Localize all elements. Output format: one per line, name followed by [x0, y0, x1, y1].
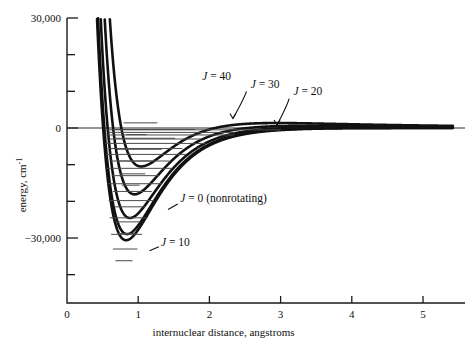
label-j20: J = 20 — [293, 85, 322, 97]
potential-curve-J20 — [101, 19, 453, 218]
y-axis-title: energy, cm-1 — [15, 158, 28, 213]
x-tick-label: 1 — [135, 308, 141, 320]
label-j30: J = 30 — [251, 78, 280, 90]
svg-text:energy, cm-1: energy, cm-1 — [15, 158, 28, 213]
label-j30-arrowhead — [230, 113, 236, 118]
y-tick-label: 0 — [56, 122, 62, 134]
x-tick-label: 0 — [64, 308, 70, 320]
y-tick-label: 30,000 — [31, 12, 62, 24]
y-tick-label: −30,000 — [25, 232, 62, 244]
x-axis-title: internuclear distance, angstroms — [153, 326, 295, 338]
label-j0-leader — [168, 204, 178, 210]
x-axis-ticks: 012345 — [64, 296, 426, 320]
x-tick-label: 5 — [420, 308, 426, 320]
x-tick-label: 4 — [349, 308, 355, 320]
label-j0: J = 0 (nonrotating) — [180, 192, 267, 205]
label-j40: J = 40 — [202, 70, 231, 82]
chart-svg: 30,0000−30,000energy, cm-1012345internuc… — [0, 0, 469, 352]
y-axis-ticks: 30,0000−30,000 — [25, 12, 78, 275]
label-j10: J = 10 — [161, 236, 190, 248]
potential-curve-J40 — [110, 19, 453, 166]
x-tick-label: 2 — [207, 308, 213, 320]
potential-energy-curves-figure: 30,0000−30,000energy, cm-1012345internuc… — [0, 0, 469, 352]
annotations-group: J = 40J = 30J = 20J = 0 (nonrotating)J =… — [150, 70, 323, 251]
label-j10-leader — [150, 247, 159, 251]
x-tick-label: 3 — [278, 308, 284, 320]
